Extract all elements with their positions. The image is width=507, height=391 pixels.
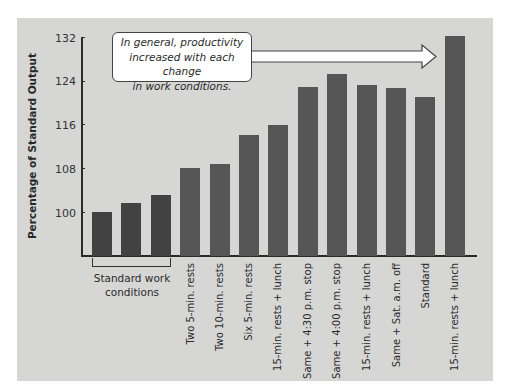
tick-108: [81, 168, 85, 169]
tick-label-132: 132: [46, 31, 76, 44]
tick-116: [81, 124, 85, 125]
bar-1: [92, 212, 112, 256]
x-tick-label-text: Same + 4:30 p.m. stop: [302, 263, 313, 379]
group-label-line-1: Standard work: [82, 271, 182, 285]
x-tick-label-text: 15-min. rests + lunch: [273, 263, 284, 371]
bar-2: [121, 203, 141, 256]
x-tick-label-text: Same + Sat. a.m. off: [391, 263, 402, 367]
bar-3: [151, 195, 171, 257]
y-axis-title-text: Percentage of Standard Output: [26, 53, 38, 239]
tick-label-100: 100: [46, 206, 76, 219]
bar-9: [327, 74, 347, 256]
bar-7: [268, 125, 288, 257]
x-tick-label-text: Six 5-min. rests: [244, 263, 255, 341]
bar-5: [210, 164, 230, 256]
tick-label-108: 108: [46, 162, 76, 175]
bar-10: [357, 85, 377, 256]
annotation-callout: In general, productivity increased with …: [112, 32, 252, 82]
tick-label-124: 124: [46, 75, 76, 88]
group-bracket: [92, 258, 171, 267]
tick-124: [81, 81, 85, 82]
tick-100: [81, 212, 85, 213]
x-tick-label-text: Two 10-min. rests: [214, 263, 225, 351]
arrow-right-icon: [250, 44, 442, 70]
bar-8: [298, 87, 318, 256]
x-tick-label-text: 15-min. rests + lunch: [449, 263, 460, 371]
bar-12: [415, 97, 435, 256]
x-tick-label-text: Same + 4:00 p.m. stop: [332, 263, 343, 379]
callout-line-3: in work conditions.: [113, 79, 251, 94]
bar-11: [386, 88, 406, 256]
callout-line-2: increased with each change: [113, 50, 251, 79]
bar-6: [239, 135, 259, 256]
x-tick-label-text: 15-min. rests + lunch: [361, 263, 372, 371]
tick-label-116: 116: [46, 118, 76, 131]
tick-132: [81, 37, 85, 38]
group-label-line-2: conditions: [82, 285, 182, 299]
y-axis-line: [81, 37, 83, 256]
x-tick-label-text: Standard: [420, 263, 431, 309]
group-label: Standard work conditions: [82, 271, 182, 299]
bar-13: [445, 36, 465, 256]
bar-4: [180, 168, 200, 256]
callout-line-1: In general, productivity: [113, 35, 251, 50]
x-tick-label-text: Two 5-min. rests: [185, 263, 196, 345]
